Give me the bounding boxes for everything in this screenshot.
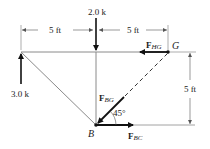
force-label-bg: FBG [99, 93, 114, 104]
force-subscript: BG [105, 96, 114, 104]
node-b-dot [94, 123, 98, 127]
load-label-2k: 2.0 k [88, 7, 107, 17]
load-2k: 2.0 k [88, 7, 107, 50]
dim-label-vertical: 5 ft [184, 84, 197, 94]
load-3k: 3.0 k [11, 54, 30, 99]
load-label-3k: 3.0 k [11, 89, 30, 99]
node-label-b: B [88, 128, 94, 139]
diagonal-member [21, 52, 96, 125]
dim-label-top-left: 5 ft [49, 25, 62, 35]
dim-label-top-right: 5 ft [127, 25, 140, 35]
node-label-g: G [172, 40, 179, 51]
dimensions: 5 ft 5 ft 5 ft [21, 25, 197, 124]
angle-label: 45° [113, 108, 126, 118]
truss-free-body-diagram: 5 ft 5 ft 5 ft 2.0 k 3.0 k FHG FBG FBC 4… [0, 0, 210, 149]
force-subscript: HG [151, 43, 162, 51]
force-label-hg: FHG [146, 40, 162, 51]
force-hg: FHG [140, 40, 167, 52]
node-g-dot [166, 50, 170, 54]
force-subscript: BC [134, 134, 143, 142]
force-bc: FBC [97, 125, 143, 142]
force-label-bc: FBC [128, 131, 143, 142]
cut-line-bg [125, 53, 168, 96]
